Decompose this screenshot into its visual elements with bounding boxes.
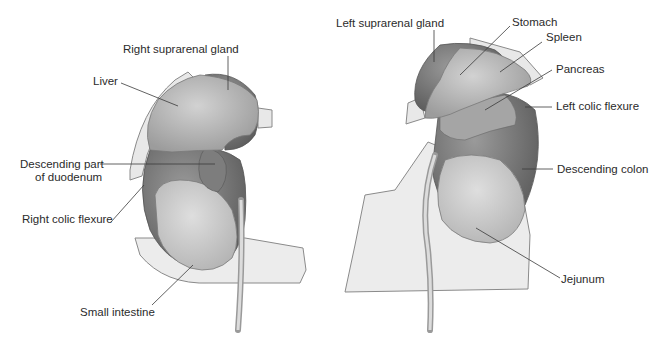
suprarenal-peritoneum-tab xyxy=(258,108,272,128)
label-descending-duodenum-line1: Descending part xyxy=(20,158,104,171)
label-spleen: Spleen xyxy=(546,31,582,44)
label-right-colic-flexure: Right colic flexure xyxy=(22,213,113,226)
label-jejunum: Jejunum xyxy=(561,273,604,286)
label-pancreas: Pancreas xyxy=(556,63,605,76)
left-kidney-view xyxy=(130,72,306,330)
label-descending-duodenum-line2: of duodenum xyxy=(35,171,102,184)
label-descending-colon: Descending colon xyxy=(557,163,648,176)
label-right-suprarenal-gland: Right suprarenal gland xyxy=(123,43,239,56)
label-small-intestine: Small intestine xyxy=(80,306,155,319)
label-liver: Liver xyxy=(93,75,118,88)
label-stomach: Stomach xyxy=(512,16,557,29)
right-kidney-view xyxy=(345,38,543,330)
label-left-suprarenal-gland: Left suprarenal gland xyxy=(336,17,444,30)
label-left-colic-flexure: Left colic flexure xyxy=(556,100,639,113)
